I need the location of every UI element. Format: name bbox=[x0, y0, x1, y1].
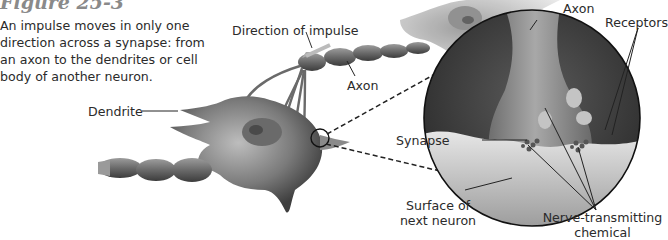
label-chemical-line2: chemical bbox=[540, 225, 665, 240]
label-nerve-transmitting-chemical: Nerve-transmitting chemical bbox=[540, 210, 665, 240]
label-axon-main: Axon bbox=[347, 78, 378, 93]
label-dendrite: Dendrite bbox=[88, 104, 143, 119]
left-axon-segments bbox=[98, 158, 212, 182]
label-surface-of-next-neuron: Surface of next neuron bbox=[398, 198, 478, 228]
label-direction-of-impulse: Direction of impulse bbox=[232, 23, 359, 38]
axon-chain bbox=[298, 42, 430, 71]
label-chemical-line1: Nerve-transmitting bbox=[540, 210, 665, 225]
label-axon-inset: Axon bbox=[563, 1, 594, 16]
cell-body bbox=[170, 96, 350, 212]
label-surface-line1: Surface of bbox=[398, 198, 478, 213]
label-receptors: Receptors bbox=[605, 15, 668, 30]
label-surface-line2: next neuron bbox=[398, 213, 478, 228]
label-synapse: Synapse bbox=[396, 133, 449, 148]
